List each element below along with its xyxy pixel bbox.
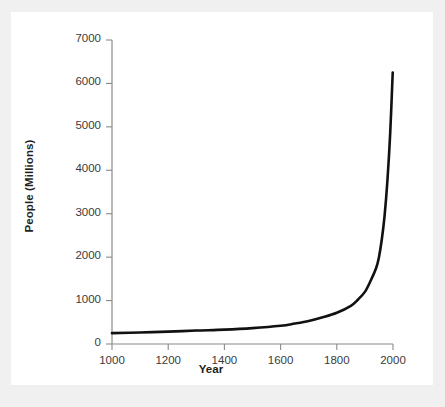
chart-card: 01000200030004000500060007000 1000120014… — [11, 12, 433, 385]
y-tick-label: 7000 — [11, 32, 101, 44]
y-tick-label: 1000 — [11, 293, 101, 305]
x-axis-label: Year — [11, 363, 411, 375]
population-growth-chart: 01000200030004000500060007000 1000120014… — [11, 12, 433, 385]
screenshot-page: 01000200030004000500060007000 1000120014… — [0, 0, 445, 407]
y-tick-label: 0 — [11, 336, 101, 348]
y-tick-label: 6000 — [11, 75, 101, 87]
y-axis-label: People (Millions) — [23, 116, 35, 256]
chart-canvas — [11, 12, 433, 385]
